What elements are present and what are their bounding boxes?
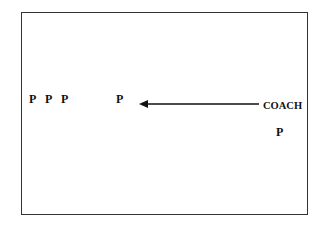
player-left-2: P <box>45 93 52 105</box>
field-frame <box>21 12 308 215</box>
player-left-3: P <box>61 93 68 105</box>
player-right: P <box>276 126 283 138</box>
player-left-1: P <box>29 93 36 105</box>
pass-arrow-icon <box>138 98 260 110</box>
coach-label: COACH <box>263 101 302 112</box>
player-center: P <box>116 93 123 105</box>
